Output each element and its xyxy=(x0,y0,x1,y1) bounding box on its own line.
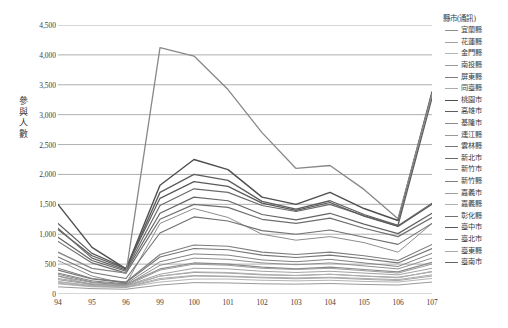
legend-swatch-icon xyxy=(445,181,458,182)
legend-item-label: 彰化縣 xyxy=(461,212,482,221)
x-axis-tick: 95 xyxy=(88,298,96,307)
legend-swatch-icon xyxy=(445,30,458,31)
legend-item[interactable]: 桃園市 xyxy=(445,95,507,107)
legend-swatch-icon xyxy=(445,169,458,170)
legend-item-label: 高雄市 xyxy=(461,107,482,116)
legend-item[interactable]: 彰化縣 xyxy=(445,211,507,223)
legend-item[interactable]: 花蓮縣 xyxy=(445,37,507,49)
legend-swatch-icon xyxy=(445,216,458,217)
x-axis-tick: 100 xyxy=(188,298,199,307)
legend-item-label: 新竹縣 xyxy=(461,177,482,186)
legend-swatch-icon xyxy=(445,111,458,112)
legend-item[interactable]: 臺北市 xyxy=(445,234,507,246)
legend-item-label: 嘉義縣 xyxy=(461,200,482,209)
y-axis-tick: 500 xyxy=(30,260,56,269)
legend-item-label: 同臺縣 xyxy=(461,84,482,93)
legend-item[interactable]: 同臺縣 xyxy=(445,83,507,95)
legend-swatch-icon xyxy=(445,239,458,240)
legend-item[interactable]: 新竹市 xyxy=(445,164,507,176)
legend-item-label: 臺中市 xyxy=(461,223,482,232)
legend-swatch-icon xyxy=(445,100,458,101)
y-axis-tick: 3,500 xyxy=(30,80,56,89)
legend-swatch-icon xyxy=(445,77,458,78)
legend-item-label: 宜蘭縣 xyxy=(461,26,482,35)
y-axis-tick: 0 xyxy=(30,290,56,299)
legend-item[interactable]: 屏東縣 xyxy=(445,71,507,83)
y-axis-tick: 1,000 xyxy=(30,230,56,239)
y-axis-tick: 4,000 xyxy=(30,50,56,59)
legend-item-label: 金門縣 xyxy=(461,49,482,58)
x-axis-tick: 99 xyxy=(156,298,164,307)
x-axis-tick: 94 xyxy=(54,298,62,307)
x-axis-tick: 102 xyxy=(256,298,267,307)
legend-item[interactable]: 臺東縣 xyxy=(445,245,507,257)
legend-item[interactable]: 嘉義縣 xyxy=(445,199,507,211)
y-axis-tick: 3,000 xyxy=(30,110,56,119)
legend-swatch-icon xyxy=(445,123,458,124)
legend-item-label: 桃園市 xyxy=(461,96,482,105)
legend-item[interactable]: 臺中市 xyxy=(445,222,507,234)
legend-item-label: 南投縣 xyxy=(461,61,482,70)
y-axis-tick: 1,500 xyxy=(30,200,56,209)
legend-item[interactable]: 嘉義市 xyxy=(445,187,507,199)
legend-swatch-icon xyxy=(445,42,458,43)
y-axis-tick-labels: 4,5004,0003,5003,0002,5002,0001,5001,000… xyxy=(30,0,56,328)
y-axis-tick: 4,500 xyxy=(30,21,56,30)
legend-item-label: 雲林縣 xyxy=(461,142,482,151)
legend-item-label: 臺東縣 xyxy=(461,247,482,256)
y-axis-tick: 2,000 xyxy=(30,170,56,179)
legend-swatch-icon xyxy=(445,88,458,89)
legend-swatch-icon xyxy=(445,193,458,194)
legend-swatch-icon xyxy=(445,204,458,205)
legend-item[interactable]: 宜蘭縣 xyxy=(445,25,507,37)
x-axis-tick-labels: 94959699100101102103104105106107 xyxy=(58,296,432,314)
legend-item[interactable]: 南投縣 xyxy=(445,60,507,72)
legend-item-label: 基隆市 xyxy=(461,119,482,128)
x-axis-tick: 103 xyxy=(290,298,301,307)
x-axis-tick: 101 xyxy=(222,298,233,307)
legend-item[interactable]: 雲林縣 xyxy=(445,141,507,153)
legend-item[interactable]: 新北市 xyxy=(445,153,507,165)
legend-swatch-icon xyxy=(445,135,458,136)
legend-item-label: 連江縣 xyxy=(461,131,482,140)
legend-items: 宜蘭縣花蓮縣金門縣南投縣屏東縣同臺縣桃園市高雄市基隆市連江縣雲林縣新北市新竹市新… xyxy=(437,25,507,268)
legend-swatch-icon xyxy=(445,262,458,263)
legend-item-label: 臺北市 xyxy=(461,235,482,244)
legend-swatch-icon xyxy=(445,251,458,252)
legend-item[interactable]: 連江縣 xyxy=(445,129,507,141)
legend-item-label: 嘉義市 xyxy=(461,189,482,198)
y-axis-tick: 2,500 xyxy=(30,140,56,149)
x-axis-tick: 106 xyxy=(392,298,403,307)
legend-item-label: 臺南市 xyxy=(461,258,482,267)
plot-area xyxy=(58,25,432,294)
legend-item[interactable]: 高雄市 xyxy=(445,106,507,118)
legend-item[interactable]: 基隆市 xyxy=(445,118,507,130)
legend-item[interactable]: 金門縣 xyxy=(445,48,507,60)
legend-item-label: 花蓮縣 xyxy=(461,38,482,47)
legend-title: 縣市(通訊) xyxy=(443,12,507,23)
legend: 縣市(通訊) 宜蘭縣花蓮縣金門縣南投縣屏東縣同臺縣桃園市高雄市基隆市連江縣雲林縣… xyxy=(437,12,507,268)
legend-item[interactable]: 新竹縣 xyxy=(445,176,507,188)
x-axis-tick: 96 xyxy=(122,298,130,307)
line-chart: 參與人數 4,5004,0003,5003,0002,5002,0001,500… xyxy=(0,0,508,328)
legend-item-label: 新竹市 xyxy=(461,165,482,174)
series-line xyxy=(58,92,432,269)
legend-swatch-icon xyxy=(445,146,458,147)
legend-item[interactable]: 臺南市 xyxy=(445,257,507,269)
legend-swatch-icon xyxy=(445,227,458,228)
x-axis-tick: 104 xyxy=(324,298,335,307)
legend-swatch-icon xyxy=(445,53,458,54)
legend-swatch-icon xyxy=(445,158,458,159)
legend-item-label: 屏東縣 xyxy=(461,73,482,82)
plot-svg xyxy=(58,25,432,294)
legend-swatch-icon xyxy=(445,65,458,66)
series-line xyxy=(58,182,432,269)
x-axis-tick: 105 xyxy=(358,298,369,307)
x-axis-tick: 107 xyxy=(426,298,437,307)
legend-item-label: 新北市 xyxy=(461,154,482,163)
